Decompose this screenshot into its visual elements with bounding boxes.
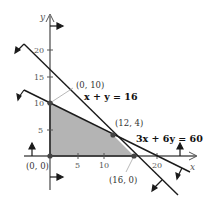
line2-start-arrow-icon [17, 90, 24, 100]
point-label-16-0: (16, 0) [109, 175, 137, 185]
y-tick-label-5: 5 [38, 126, 43, 135]
x-tick-label-20: 20 [152, 161, 162, 170]
y-tick-label-15: 15 [34, 73, 44, 82]
vertex-12-4 [110, 132, 115, 137]
vertex-0-0 [47, 153, 52, 158]
y-axis-bottom-constraint-arrow-icon [50, 174, 63, 180]
point-label-0-10: (0, 10) [76, 80, 104, 90]
x-axis-right-constraint-arrow-icon [177, 143, 183, 156]
x-axis-label: x [190, 162, 195, 172]
line1-start-arrow-icon [15, 44, 24, 53]
leader-0-10 [50, 88, 73, 103]
point-label-0-0: (0, 0) [26, 161, 49, 171]
vertex-0-10 [47, 100, 52, 105]
y-tick-label-20: 20 [34, 46, 44, 55]
y-tick-label-10: 10 [34, 99, 44, 108]
linear-programming-diagram: 5 10 20 5 10 15 20 y x [0, 0, 211, 204]
vertex-16-0 [131, 153, 136, 158]
equation-label-line2: 3x + 6y = 60 [136, 133, 203, 144]
line2-end-arrow-icon [176, 168, 182, 179]
x-axis-constraint-arrow-icon [29, 143, 35, 156]
line1-end-arrow-icon [152, 180, 162, 191]
y-axis-constraint-arrow-icon [50, 23, 63, 29]
y-axis-label: y [39, 12, 46, 22]
line-x-plus-y-16 [24, 44, 178, 195]
x-tick-label-10: 10 [99, 161, 109, 170]
equation-label-line1: x + y = 16 [84, 91, 138, 102]
point-label-12-4: (12, 4) [115, 118, 143, 128]
x-tick-label-5: 5 [75, 161, 80, 170]
leader-16-0 [126, 156, 134, 172]
